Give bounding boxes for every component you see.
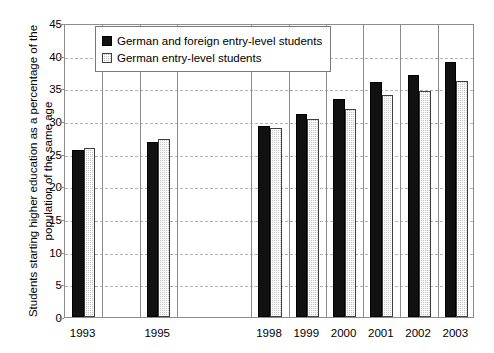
category-separator-10 — [438, 25, 439, 317]
x-tick-label-2001: 2001 — [368, 327, 394, 339]
bar-1995-series-0 — [147, 142, 159, 317]
bar-1993-series-1 — [84, 148, 96, 317]
bar-1999-series-1 — [307, 119, 319, 317]
x-tick-label-1998: 1998 — [256, 327, 282, 339]
legend-swatch-icon-series-0 — [102, 36, 112, 46]
category-separator-8 — [363, 25, 364, 317]
bar-1995-series-1 — [158, 139, 170, 317]
bar-2000-series-1 — [345, 109, 357, 317]
legend-item-0: German and foreign entry-level students — [102, 32, 322, 49]
bar-2000-series-0 — [333, 99, 345, 317]
x-tick-label-1999: 1999 — [293, 327, 319, 339]
bar-2002-series-1 — [419, 91, 431, 317]
bar-2003-series-1 — [456, 81, 468, 318]
x-tick-label-2002: 2002 — [405, 327, 431, 339]
bar-1993-series-0 — [72, 150, 84, 317]
legend: German and foreign entry-level students … — [95, 26, 331, 72]
y-axis-title-line-1: Students starting higher education as a … — [26, 25, 41, 317]
y-tick-mark-0 — [59, 318, 64, 319]
legend-swatch-icon-series-1 — [102, 53, 112, 63]
legend-label-series-0: German and foreign entry-level students — [117, 35, 322, 47]
bar-2002-series-0 — [408, 75, 420, 317]
legend-label-series-1: German entry-level students — [117, 52, 261, 64]
x-tick-label-1993: 1993 — [70, 327, 96, 339]
bar-2001-series-0 — [370, 82, 382, 317]
x-tick-label-2000: 2000 — [331, 327, 357, 339]
category-separator-9 — [400, 25, 401, 317]
x-tick-label-2003: 2003 — [443, 327, 469, 339]
bar-2003-series-0 — [445, 62, 457, 317]
bar-1998-series-0 — [258, 126, 270, 317]
bar-1999-series-0 — [296, 114, 308, 317]
legend-item-1: German entry-level students — [102, 49, 322, 66]
bar-chart: Students starting higher education as a … — [0, 0, 494, 353]
bar-2001-series-1 — [382, 95, 394, 317]
bar-1998-series-1 — [270, 128, 282, 317]
x-tick-label-1995: 1995 — [144, 327, 170, 339]
